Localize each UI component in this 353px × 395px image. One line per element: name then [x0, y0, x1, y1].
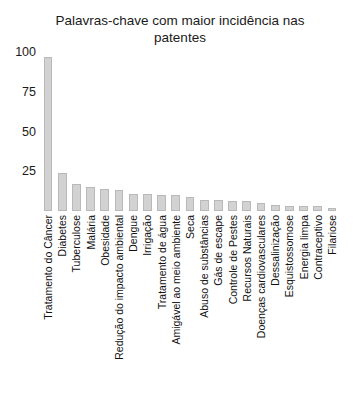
y-tick-label: 100: [15, 45, 36, 59]
bar: [157, 195, 166, 211]
chart-title: Palavras-chave com maior incidência nas …: [30, 12, 330, 46]
x-tick-label: Dengue: [126, 213, 140, 388]
x-tick-label: Gás de escape: [211, 213, 225, 388]
x-tick-label-text: Redução do impacto ambiental: [114, 215, 125, 360]
x-axis-category-labels: Tratamento do CâncerDiabetesTuberculoseM…: [41, 213, 339, 388]
x-tick-label-text: Irrigação: [142, 215, 153, 256]
bar: [58, 173, 67, 211]
x-tick-label-text: Tratamento de água: [157, 215, 168, 309]
x-tick-label-text: Controle de Pestes: [228, 215, 239, 304]
bar: [143, 194, 152, 211]
bar: [214, 200, 223, 211]
x-tick-label: Amigável ao meio ambiente: [169, 213, 183, 388]
x-tick-label: Diabetes: [55, 213, 69, 388]
bar: [86, 187, 95, 211]
x-tick-label-text: Recursos Naturais: [242, 215, 253, 301]
x-tick-label-text: Gás de escape: [213, 215, 224, 286]
bar: [299, 206, 308, 211]
bar: [44, 57, 53, 211]
x-tick-label-text: Doenças cardiovasculares: [256, 215, 267, 338]
x-tick-label-text: Malária: [86, 215, 97, 249]
x-tick-label-text: Tratamento do Câncer: [43, 215, 54, 320]
bar-chart: Palavras-chave com maior incidência nas …: [0, 0, 353, 395]
y-tick-label: 50: [22, 125, 36, 139]
bar: [285, 206, 294, 211]
x-tick-label: Seca: [183, 213, 197, 388]
x-tick-label: Tuberculose: [69, 213, 83, 388]
x-tick-label-text: Abuso de substâncias: [199, 215, 210, 318]
x-tick-label-text: Energia limpa: [299, 215, 310, 279]
x-tick-label-text: Tuberculose: [71, 215, 82, 272]
x-tick-label: Filariose: [325, 213, 339, 388]
bar: [186, 197, 195, 211]
x-tick-label: Dessalinização: [268, 213, 282, 388]
x-tick-label: Malária: [84, 213, 98, 388]
bar: [257, 203, 266, 211]
bar: [328, 208, 337, 211]
x-tick-label: Recursos Naturais: [240, 213, 254, 388]
bar: [100, 189, 109, 211]
x-tick-label: Redução do impacto ambiental: [112, 213, 126, 388]
bar: [271, 205, 280, 211]
y-tick-label: 25: [22, 164, 36, 178]
bar: [171, 195, 180, 211]
bar: [200, 200, 209, 211]
x-tick-label: Irrigação: [140, 213, 154, 388]
bar: [313, 206, 322, 211]
x-tick-label: Esquistossomose: [282, 213, 296, 388]
x-tick-label: Doenças cardiovasculares: [254, 213, 268, 388]
bar: [72, 184, 81, 211]
x-tick-label: Tratamento de água: [155, 213, 169, 388]
x-tick-label-text: Filariose: [327, 215, 338, 255]
x-tick-label: Energia limpa: [296, 213, 310, 388]
x-tick-label-text: Amigável ao meio ambiente: [171, 215, 182, 345]
x-tick-label: Obesidade: [98, 213, 112, 388]
y-tick-label: 75: [22, 85, 36, 99]
plot-area: 255075100: [41, 52, 339, 211]
bar: [228, 201, 237, 211]
x-tick-label-text: Esquistossomose: [284, 215, 295, 297]
bar: [129, 194, 138, 211]
x-tick-label-text: Contraceptivo: [313, 215, 324, 280]
x-tick-label: Abuso de substâncias: [197, 213, 211, 388]
x-tick-label-text: Diabetes: [57, 215, 68, 256]
x-tick-label-text: Dengue: [128, 215, 139, 252]
bar: [242, 201, 251, 211]
x-tick-label: Tratamento do Câncer: [41, 213, 55, 388]
bar-series: [41, 52, 339, 211]
x-tick-label-text: Dessalinização: [270, 215, 281, 286]
x-tick-label: Contraceptivo: [311, 213, 325, 388]
bar: [115, 190, 124, 211]
x-tick-label-text: Obesidade: [100, 215, 111, 266]
x-tick-label-text: Seca: [185, 215, 196, 239]
x-tick-label: Controle de Pestes: [225, 213, 239, 388]
